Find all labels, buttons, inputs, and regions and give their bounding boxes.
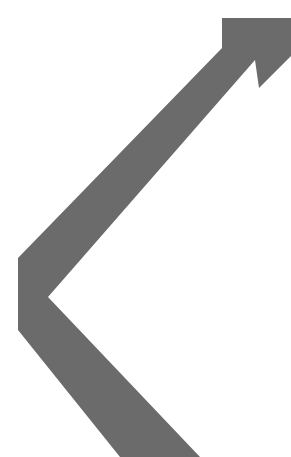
graphic-canvas: bent-arrow up-right [0, 0, 291, 457]
bent-arrow-render [0, 0, 291, 457]
